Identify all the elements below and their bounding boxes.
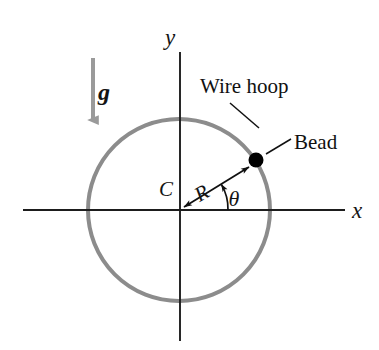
bead-dot (249, 153, 264, 168)
center-label-c: C (159, 177, 174, 201)
figure-canvas: y x g Wire hoop Bead C R θ (0, 0, 379, 350)
bead-label: Bead (294, 130, 338, 154)
angle-label-theta: θ (229, 186, 240, 211)
physics-figure-bead-on-hoop: y x g Wire hoop Bead C R θ (0, 0, 379, 350)
radius-label-r: R (189, 179, 213, 207)
y-axis-label: y (163, 25, 176, 50)
x-axis-label: x (351, 198, 363, 223)
wire-hoop-label: Wire hoop (200, 74, 288, 98)
gravity-label: g (97, 79, 110, 105)
wire-hoop-leader-line (230, 103, 259, 128)
bead-leader-line (266, 139, 291, 154)
angle-arc (222, 185, 229, 210)
